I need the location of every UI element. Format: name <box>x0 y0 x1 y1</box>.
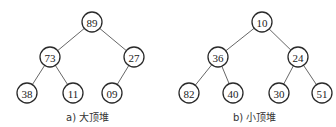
svg-text:73: 73 <box>45 52 57 64</box>
tree-node-30: 30 <box>269 83 289 103</box>
tree-edges <box>27 22 322 93</box>
tree-node-82: 82 <box>179 83 199 103</box>
svg-text:27: 27 <box>129 52 141 64</box>
svg-text:38: 38 <box>22 88 34 100</box>
svg-text:11: 11 <box>68 88 79 100</box>
heap-diagrams: 89732738110910362482403051 <box>0 0 336 127</box>
tree-node-10: 10 <box>252 12 272 32</box>
svg-text:51: 51 <box>317 88 328 100</box>
tree-node-36: 36 <box>208 47 228 67</box>
caption-min-heap: b) 小顶堆 <box>233 109 276 124</box>
tree-node-27: 27 <box>124 47 144 67</box>
svg-text:30: 30 <box>274 88 286 100</box>
svg-text:24: 24 <box>293 52 305 64</box>
tree-node-11: 11 <box>63 83 83 103</box>
svg-text:82: 82 <box>184 88 195 100</box>
svg-text:09: 09 <box>107 88 119 100</box>
tree-nodes: 89732738110910362482403051 <box>17 12 332 103</box>
tree-node-40: 40 <box>223 83 243 103</box>
tree-node-09: 09 <box>102 83 122 103</box>
tree-node-24: 24 <box>288 47 308 67</box>
svg-text:36: 36 <box>213 52 225 64</box>
svg-text:89: 89 <box>87 17 99 29</box>
tree-node-38: 38 <box>17 83 37 103</box>
svg-text:10: 10 <box>257 17 269 29</box>
tree-node-51: 51 <box>312 83 332 103</box>
tree-node-89: 89 <box>82 12 102 32</box>
caption-max-heap: a) 大顶堆 <box>66 109 109 124</box>
svg-text:40: 40 <box>228 88 240 100</box>
tree-node-73: 73 <box>40 47 60 67</box>
